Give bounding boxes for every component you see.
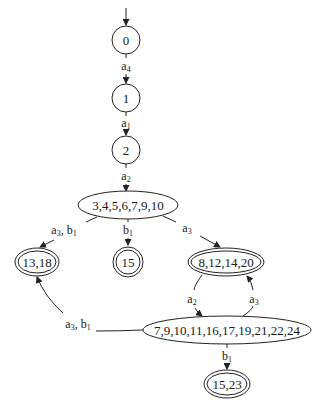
edge-1-2: a1 [121, 112, 130, 135]
state-node-8-12-14-20[interactable]: 8,12,14,20 [188, 248, 264, 276]
node-label: 15 [122, 255, 135, 270]
edge-7-9-to-8-12-14-20: a3 [243, 276, 259, 316]
edge-label: a3, b1 [51, 223, 76, 238]
state-node-2[interactable]: 2 [112, 136, 140, 164]
state-diagram: 0 a4 1 a1 2 [0, 0, 328, 417]
state-node-0[interactable]: 0 [112, 26, 140, 54]
node-label: 3,4,5,6,7,9,10 [92, 198, 164, 213]
node-label: 7,9,10,11,16,17,19,21,22,24 [154, 323, 300, 338]
edge-3-to-8-12-14-20: a3 [163, 216, 220, 247]
edge-8-12-14-20-to-7-9: a2 [187, 275, 202, 316]
edge-label: a3 [182, 221, 191, 236]
edge-label: a3 [249, 292, 258, 307]
edge-label: a2 [121, 169, 130, 184]
edge-7-9-to-15-23: b1 [222, 344, 232, 369]
edge-label: b1 [222, 349, 232, 364]
edge-label: a2 [187, 292, 196, 307]
state-node-15[interactable]: 15 [113, 247, 143, 277]
edge-2-3: a2 [121, 164, 130, 191]
edge-3-to-15: b1 [123, 219, 133, 245]
state-node-13-18[interactable]: 13,18 [15, 248, 59, 276]
state-node-3-4-5-6-7-9-10[interactable]: 3,4,5,6,7,9,10 [78, 191, 178, 219]
edge-label: a1 [121, 116, 130, 131]
state-node-1[interactable]: 1 [112, 84, 140, 112]
node-label: 2 [123, 143, 130, 158]
node-label: 0 [123, 33, 130, 48]
state-node-15-23[interactable]: 15,23 [204, 370, 250, 398]
edge-3-to-13-18: a3, b1 [40, 217, 97, 247]
edge-label: a3, b1 [65, 317, 90, 332]
edge-label: b1 [123, 223, 133, 238]
node-label: 8,12,14,20 [198, 255, 253, 270]
node-label: 1 [123, 91, 130, 106]
node-label: 13,18 [22, 255, 51, 270]
edge-0-1: a4 [121, 54, 130, 83]
diagram-svg: 0 a4 1 a1 2 [0, 0, 328, 417]
node-label: 15,23 [212, 377, 241, 392]
state-node-7-9-10-11-16-17-19-21-22-24[interactable]: 7,9,10,11,16,17,19,21,22,24 [143, 316, 311, 344]
edge-7-9-to-13-18: a3, b1 [37, 277, 143, 332]
edge-label: a4 [121, 59, 130, 74]
